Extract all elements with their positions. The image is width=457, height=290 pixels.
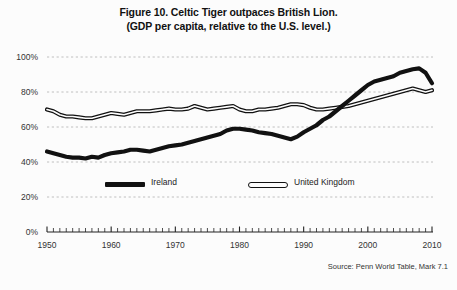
y-axis-tick-label: 60% [4, 123, 38, 132]
y-axis-tick-label: 40% [4, 158, 38, 167]
series-line-united-kingdom-outer [47, 89, 432, 119]
x-axis-tick-label: 1990 [284, 240, 324, 250]
source-note: Source: Penn World Table, Mark 7.1 [0, 262, 448, 271]
legend-swatch-ireland [105, 182, 145, 187]
y-axis-tick-label: 80% [4, 88, 38, 97]
data-series-layer [47, 68, 432, 158]
x-axis-tick-label: 2000 [348, 240, 388, 250]
x-axis-tick-label: 1970 [155, 240, 195, 250]
y-axis-tick-label: 100% [4, 53, 38, 62]
y-axis-tick-label: 0% [4, 228, 38, 237]
x-axis-tick-label: 1950 [27, 240, 67, 250]
x-axis-tick-label: 1960 [91, 240, 131, 250]
figure-container: Figure 10. Celtic Tiger outpaces British… [0, 0, 457, 290]
x-axis-tick-label: 1980 [220, 240, 260, 250]
legend-label-united-kingdom: United Kingdom [294, 177, 354, 187]
legend-label-ireland: Ireland [151, 177, 177, 187]
y-axis-tick-label: 20% [4, 193, 38, 202]
legend-swatch-united-kingdom [248, 182, 288, 188]
x-axis-tick-label: 2010 [412, 240, 452, 250]
x-axis-minor-ticks [47, 227, 432, 233]
